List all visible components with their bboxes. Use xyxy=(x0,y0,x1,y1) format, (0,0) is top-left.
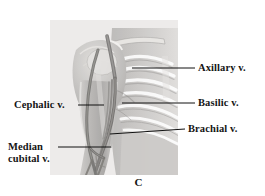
label-brachial-vein: Brachial v. xyxy=(188,123,238,135)
anatomy-figure: Axillary v. Basilic v. Brachial v. Cepha… xyxy=(0,0,265,196)
anatomy-illustration xyxy=(50,20,178,175)
anatomy-image-panel xyxy=(50,20,178,175)
panel-letter-text: C xyxy=(135,176,143,188)
label-cephalic-vein: Cephalic v. xyxy=(14,99,65,111)
panel-letter: C xyxy=(0,176,265,188)
label-axillary-vein: Axillary v. xyxy=(198,62,246,74)
label-basilic-vein: Basilic v. xyxy=(198,97,239,109)
label-median-cubital-vein: Median cubital v. xyxy=(8,141,60,165)
